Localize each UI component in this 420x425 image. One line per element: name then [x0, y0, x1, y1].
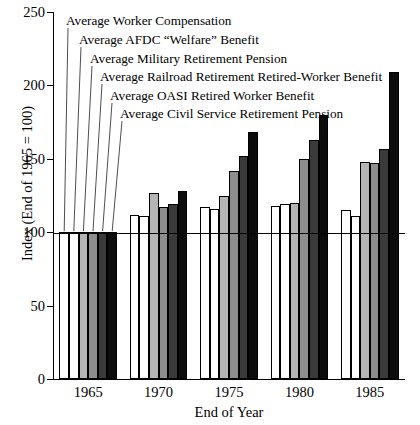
bar [229, 171, 239, 379]
bar [239, 156, 249, 379]
reference-line-100 [53, 233, 405, 234]
bar [168, 204, 178, 379]
bar [248, 132, 258, 379]
bar [98, 232, 108, 379]
y-tick-label: 0 [38, 372, 45, 387]
bar [149, 193, 159, 379]
bar [389, 72, 399, 379]
bar [299, 159, 309, 379]
bar [210, 209, 220, 379]
y-tick-label: 50 [31, 299, 46, 314]
y-tick-label: 250 [23, 5, 45, 20]
bar [271, 206, 281, 379]
x-tick-label: 1965 [53, 385, 123, 400]
bar [360, 162, 370, 379]
bar [88, 232, 98, 379]
bar [280, 204, 290, 379]
y-tick-mark [47, 12, 54, 13]
y-tick-mark [47, 379, 54, 380]
series-callout-label: Average Worker Compensation [66, 14, 231, 27]
y-tick-label: 200 [23, 78, 45, 93]
series-callout-label: Average AFDC “Welfare” Benefit [79, 33, 259, 46]
y-tick-mark [47, 306, 54, 307]
x-axis-title: End of Year [53, 404, 405, 421]
x-axis-line [53, 379, 405, 380]
bar [309, 140, 319, 379]
bar [290, 203, 300, 379]
y-tick-label: 150 [23, 152, 45, 167]
x-tick-label: 1975 [194, 385, 264, 400]
x-tick-label: 1985 [335, 385, 405, 400]
y-tick-label: 100 [23, 225, 45, 240]
y-tick-mark [47, 232, 54, 233]
bar [219, 196, 229, 380]
series-callout-label: Average Railroad Retirement Retired-Work… [100, 70, 382, 83]
x-tick-label: 1980 [264, 385, 334, 400]
y-axis-tick-labels: 050100150200250 [0, 0, 45, 425]
bar [79, 232, 89, 379]
series-callout-label: Average Military Retirement Pension [90, 52, 287, 65]
bar [59, 232, 69, 379]
bar [130, 215, 140, 379]
bar [351, 216, 361, 379]
bar [69, 232, 79, 379]
y-tick-mark [47, 85, 54, 86]
chart-figure: Index (End of 1965 = 100) 05010015020025… [0, 0, 420, 425]
bar [341, 210, 351, 379]
bar [370, 163, 380, 379]
bar [139, 216, 149, 379]
series-callout-label: Average Civil Service Retirement Pension [120, 107, 343, 120]
bar-plot-area [53, 12, 405, 379]
x-tick-label: 1970 [124, 385, 194, 400]
y-tick-mark [47, 159, 54, 160]
bar [178, 191, 188, 379]
bar [107, 232, 117, 379]
bar [319, 115, 329, 379]
bar [379, 149, 389, 379]
series-callout-label: Average OASI Retired Worker Benefit [110, 89, 314, 102]
